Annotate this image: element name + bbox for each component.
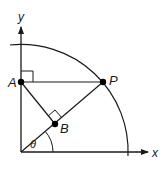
label-P: P (109, 73, 118, 88)
x-axis-label: x (151, 146, 159, 160)
right-angle-marker-B (48, 110, 62, 118)
theta-label: θ (30, 138, 36, 150)
point-B (52, 121, 58, 127)
label-A: A (7, 75, 17, 90)
point-P (100, 79, 106, 85)
point-A (18, 79, 24, 85)
theta-angle-arc (45, 131, 53, 152)
y-axis-label: y (17, 10, 25, 24)
segment-AB (21, 82, 55, 124)
circle-arc (10, 44, 128, 156)
label-B: B (60, 121, 69, 136)
unit-circle-diagram: y x θ A P B (0, 0, 167, 169)
